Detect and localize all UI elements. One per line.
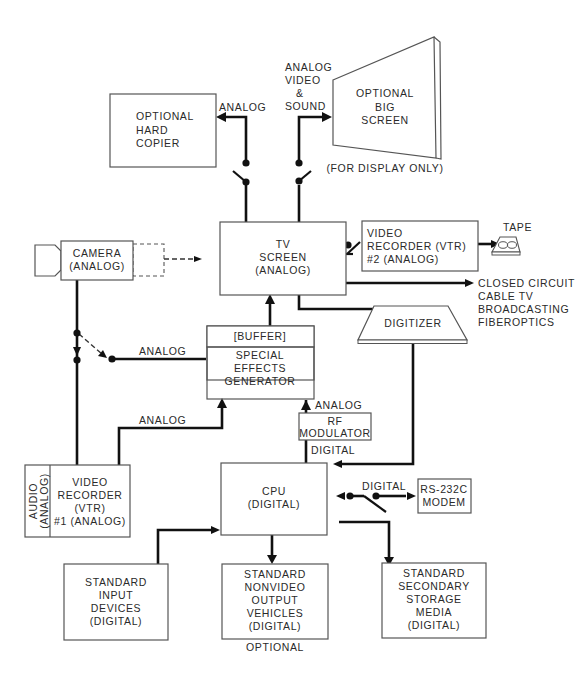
- svg-text:STANDARD: STANDARD: [244, 568, 306, 580]
- svg-text:SOUND: SOUND: [285, 100, 326, 112]
- svg-text:VIDEO: VIDEO: [285, 74, 321, 86]
- svg-text:CLOSED CIRCUIT: CLOSED CIRCUIT: [478, 277, 575, 289]
- svg-text:STORAGE: STORAGE: [406, 593, 461, 605]
- special-effects-generator-block: [BUFFER] SPECIAL EFFECTS GENERATOR: [207, 326, 314, 387]
- svg-text:TV: TV: [276, 238, 291, 250]
- svg-text:(VTR): (VTR): [75, 502, 106, 514]
- svg-text:(DIGITAL): (DIGITAL): [90, 615, 142, 627]
- copier-analog-label: ANALOG: [219, 101, 266, 113]
- svg-text:(ANALOG): (ANALOG): [255, 264, 311, 276]
- svg-text:OUTPUT: OUTPUT: [252, 594, 299, 606]
- svg-text:BROADCASTING: BROADCASTING: [478, 303, 569, 315]
- svg-text:BIG: BIG: [375, 101, 395, 113]
- digitizer-block: DIGITIZER: [358, 306, 467, 344]
- rf-digital-label: DIGITAL: [311, 444, 355, 456]
- svg-text:DEVICES: DEVICES: [91, 602, 141, 614]
- svg-text:GENERATOR: GENERATOR: [225, 375, 296, 387]
- svg-text:RECORDER (VTR): RECORDER (VTR): [367, 240, 466, 252]
- svg-text:STANDARD: STANDARD: [403, 567, 465, 579]
- svg-text:VIDEO: VIDEO: [367, 227, 403, 239]
- svg-text:RS-232C: RS-232C: [420, 483, 467, 495]
- cpu-block: CPU (DIGITAL): [221, 463, 327, 535]
- svg-text:SCREEN: SCREEN: [259, 251, 306, 263]
- rf-modulator-block: ANALOG RF MODULATOR DIGITAL: [299, 399, 371, 456]
- camera-switch-dashed-arrow: [79, 334, 103, 355]
- svg-text:CABLE TV: CABLE TV: [478, 290, 533, 302]
- svg-text:SPECIAL: SPECIAL: [236, 349, 285, 361]
- standard-secondary-storage-media-block: STANDARD SECONDARY STORAGE MEDIA (DIGITA…: [382, 563, 486, 638]
- big-screen-signal-label: ANALOG VIDEO & SOUND: [285, 61, 332, 112]
- svg-text:(DIGITAL): (DIGITAL): [408, 619, 460, 631]
- svg-text:EFFECTS: EFFECTS: [234, 362, 286, 374]
- optional-hard-copier-block: OPTIONAL HARD COPIER: [110, 94, 216, 167]
- svg-text:OPTIONAL: OPTIONAL: [356, 87, 414, 99]
- broadcast-outputs-label: CLOSED CIRCUIT CABLE TV BROADCASTING FIB…: [478, 277, 575, 328]
- svg-text:TAPE: TAPE: [503, 221, 532, 233]
- cpu-modem-digital-label: DIGITAL: [362, 480, 406, 492]
- optional-big-screen-block: OPTIONAL BIG SCREEN (FOR DISPLAY ONLY): [327, 37, 444, 174]
- svg-text:(DIGITAL): (DIGITAL): [248, 498, 300, 510]
- svg-text:RECORDER: RECORDER: [58, 489, 123, 501]
- svg-text:VEHICLES: VEHICLES: [247, 607, 304, 619]
- svg-text:(DIGITAL): (DIGITAL): [249, 620, 301, 632]
- svg-text:MODULATOR: MODULATOR: [299, 427, 371, 439]
- video-recorder-vtr1-block: VIDEO RECORDER (VTR) #1 (ANALOG) AUDIO (…: [25, 465, 130, 537]
- video-recorder-vtr2-block: VIDEO RECORDER (VTR) #2 (ANALOG): [362, 221, 478, 271]
- audio-analog-label: (ANALOG): [38, 473, 50, 529]
- svg-text:MEDIA: MEDIA: [416, 606, 452, 618]
- svg-text:OPTIONAL: OPTIONAL: [136, 110, 194, 122]
- svg-text:NONVIDEO: NONVIDEO: [245, 581, 306, 593]
- svg-text:STANDARD: STANDARD: [85, 576, 147, 588]
- vtr1-seg-analog-label: ANALOG: [139, 414, 186, 426]
- camera-seg-analog-label: ANALOG: [139, 345, 186, 357]
- camera-block: CAMERA (ANALOG): [35, 241, 133, 280]
- svg-text:CAMERA: CAMERA: [73, 247, 122, 259]
- svg-text:SCREEN: SCREEN: [361, 114, 408, 126]
- svg-text:(ANALOG): (ANALOG): [69, 260, 125, 272]
- svg-text:#1 (ANALOG): #1 (ANALOG): [54, 515, 126, 527]
- svg-text:HARD: HARD: [136, 124, 168, 136]
- standard-input-devices-block: STANDARD INPUT DEVICES (DIGITAL): [64, 564, 168, 640]
- svg-text:DIGITIZER: DIGITIZER: [384, 317, 441, 329]
- rs232c-modem-block: RS-232C MODEM: [418, 479, 471, 513]
- big-screen-caption: (FOR DISPLAY ONLY): [327, 162, 444, 174]
- tape-icon: TAPE: [492, 221, 532, 255]
- svg-text:INPUT: INPUT: [99, 589, 134, 601]
- camera-to-tv-dotted-link: [133, 244, 202, 276]
- svg-text:ANALOG: ANALOG: [285, 61, 332, 73]
- svg-text:RF: RF: [327, 415, 342, 427]
- standard-nonvideo-output-vehicles-block: STANDARD NONVIDEO OUTPUT VEHICLES (DIGIT…: [222, 564, 328, 653]
- svg-text:SECONDARY: SECONDARY: [398, 580, 470, 592]
- video-computer-system-diagram: OPTIONAL HARD COPIER ANALOG OPTIONAL BIG…: [0, 0, 579, 688]
- svg-text:VIDEO: VIDEO: [72, 476, 108, 488]
- rf-analog-label: ANALOG: [315, 399, 362, 411]
- svg-text:MODEM: MODEM: [422, 496, 465, 508]
- svg-text:FIBEROPTICS: FIBEROPTICS: [478, 316, 555, 328]
- buffer-label: [BUFFER]: [234, 330, 287, 342]
- svg-text:#2 (ANALOG): #2 (ANALOG): [367, 253, 439, 265]
- svg-text:&: &: [296, 87, 304, 99]
- svg-text:CPU: CPU: [262, 485, 286, 497]
- optional-caption: OPTIONAL: [246, 641, 304, 653]
- svg-text:COPIER: COPIER: [136, 137, 180, 149]
- tv-screen-block: TV SCREEN (ANALOG): [220, 222, 346, 295]
